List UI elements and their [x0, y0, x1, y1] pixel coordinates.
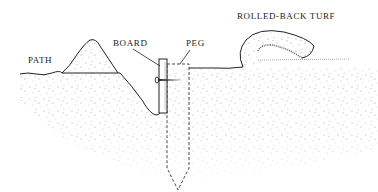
soil-region — [20, 68, 378, 192]
label-peg: PEG — [186, 39, 205, 48]
board — [159, 59, 167, 113]
ground-line-right — [189, 67, 243, 68]
rolled-back-turf — [240, 31, 350, 67]
edging-cross-section-diagram — [0, 0, 378, 192]
path-mound — [62, 40, 118, 73]
label-path: PATH — [28, 56, 52, 65]
label-board: BOARD — [113, 39, 148, 48]
board-leader-line — [133, 49, 160, 66]
label-rolled-back-turf: ROLLED-BACK TURF — [237, 12, 335, 21]
peg-leader-line — [180, 50, 190, 64]
